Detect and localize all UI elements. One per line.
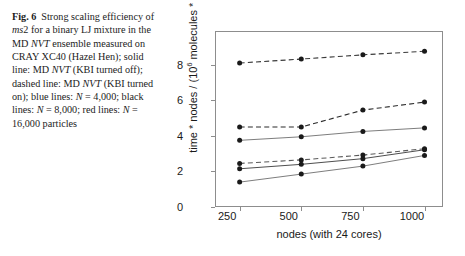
data-point bbox=[422, 125, 427, 130]
caption-run: = 8,000; red lines: bbox=[43, 104, 122, 115]
x-tick-mark bbox=[425, 207, 426, 211]
series-line bbox=[240, 102, 425, 127]
caption-italic: NVT bbox=[52, 64, 71, 75]
y-tick-label: 0 bbox=[143, 201, 183, 213]
data-point bbox=[237, 161, 242, 166]
caption-italic: N bbox=[123, 104, 130, 115]
series-line bbox=[240, 128, 425, 140]
data-point bbox=[299, 57, 304, 62]
y-axis-label-suffix: molecules * steps) / s bbox=[187, 0, 199, 63]
data-point bbox=[360, 156, 365, 161]
data-point bbox=[299, 125, 304, 130]
data-point bbox=[360, 164, 365, 169]
x-tick-mark bbox=[301, 207, 302, 211]
caption-text: Strong scaling efficiency of ms2 for a b… bbox=[12, 11, 154, 129]
y-tick-label: 8 bbox=[143, 59, 183, 71]
data-point bbox=[422, 49, 427, 54]
y-tick-label: 2 bbox=[143, 165, 183, 177]
figure-container: Fig. 6Strong scaling efficiency of ms2 f… bbox=[0, 0, 465, 256]
caption-italic: ms bbox=[12, 24, 23, 35]
caption-italic: NVT bbox=[31, 38, 50, 49]
y-tick-mark bbox=[211, 207, 215, 208]
x-tick-mark bbox=[240, 207, 241, 211]
data-point bbox=[299, 157, 304, 162]
series-line bbox=[240, 155, 425, 182]
data-point bbox=[299, 162, 304, 167]
series-line bbox=[240, 150, 425, 169]
data-point bbox=[237, 61, 242, 66]
data-point bbox=[360, 52, 365, 57]
x-tick-mark bbox=[363, 207, 364, 211]
data-point bbox=[422, 147, 427, 152]
data-point bbox=[237, 166, 242, 171]
series-0 bbox=[237, 49, 427, 66]
plot-data-area bbox=[215, 31, 443, 207]
data-point bbox=[237, 138, 242, 143]
chart-panel: time * nodes / (106 molecules * steps) /… bbox=[165, 0, 465, 256]
data-point bbox=[237, 125, 242, 130]
y-axis-label-exponent: 6 bbox=[185, 63, 194, 67]
data-point bbox=[422, 100, 427, 105]
x-tick-label: 500 bbox=[264, 210, 314, 222]
x-tick-label: 250 bbox=[202, 210, 252, 222]
data-point bbox=[237, 180, 242, 185]
data-point bbox=[360, 129, 365, 134]
figure-caption: Fig. 6Strong scaling efficiency of ms2 f… bbox=[12, 10, 164, 130]
data-point bbox=[299, 172, 304, 177]
y-tick-label: 6 bbox=[143, 94, 183, 106]
series-1 bbox=[237, 100, 427, 130]
chart-svg bbox=[215, 31, 443, 207]
series-line bbox=[240, 51, 425, 63]
caption-italic: NVT bbox=[82, 78, 101, 89]
x-tick-label: 1000 bbox=[387, 210, 437, 222]
series-2 bbox=[237, 125, 427, 142]
figure-number: Fig. 6 bbox=[12, 11, 36, 22]
caption-run: Strong scaling efficiency of bbox=[41, 11, 154, 22]
data-point bbox=[422, 153, 427, 158]
y-tick-label: 4 bbox=[143, 130, 183, 142]
x-tick-label: 750 bbox=[325, 210, 375, 222]
x-axis-label: nodes (with 24 cores) bbox=[215, 228, 443, 240]
data-point bbox=[299, 134, 304, 139]
data-point bbox=[360, 108, 365, 113]
y-axis-label-prefix: time * nodes / (10 bbox=[187, 67, 199, 153]
series-3 bbox=[237, 146, 427, 166]
y-axis-label: time * nodes / (106 molecules * steps) /… bbox=[185, 0, 199, 153]
